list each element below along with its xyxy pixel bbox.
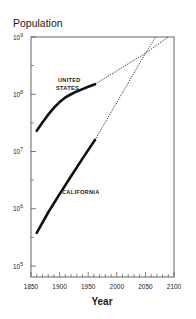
- series-group: [37, 37, 169, 233]
- x-tick-label: 1850: [24, 283, 39, 290]
- chart-title: Population: [13, 17, 63, 29]
- projection-line: [95, 37, 156, 140]
- y-tick-label: 105: [13, 261, 23, 270]
- x-tick-label: 2050: [138, 283, 153, 290]
- series-line: [37, 84, 95, 131]
- y-axis: 105106107108109: [13, 32, 36, 270]
- x-tick-label: 2000: [110, 283, 125, 290]
- series-label: CALIFORNIA: [62, 189, 100, 195]
- y-tick-label: 108: [13, 89, 23, 98]
- x-tick-label: 2100: [167, 283, 182, 290]
- plot-frame: [31, 37, 174, 277]
- series-label: UNITED: [58, 77, 81, 83]
- x-axis: 185019001950200020502100: [24, 272, 182, 290]
- x-tick-label: 1950: [81, 283, 96, 290]
- x-axis-label: Year: [91, 296, 112, 307]
- y-tick-label: 106: [13, 203, 23, 212]
- y-tick-label: 109: [13, 32, 23, 41]
- x-tick-label: 1900: [52, 283, 67, 290]
- series-line: [37, 140, 95, 233]
- y-tick-label: 107: [13, 146, 23, 155]
- population-chart: Population 105106107108109 1850190019502…: [0, 0, 196, 319]
- series-labels: UNITEDSTATESCALIFORNIA: [56, 77, 100, 195]
- series-label: STATES: [56, 85, 79, 91]
